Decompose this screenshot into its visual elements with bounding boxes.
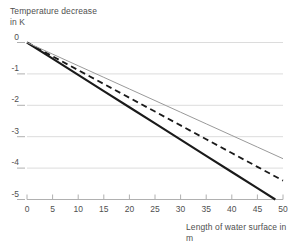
y-tick-label: -3 <box>1 126 19 136</box>
x-tick-label: 20 <box>119 204 139 214</box>
x-tick-label: 0 <box>17 204 37 214</box>
x-tick-label: 40 <box>222 204 242 214</box>
y-tick-label: -5 <box>1 189 19 199</box>
y-tick-label: 0 <box>1 32 19 42</box>
x-tick-label: 25 <box>145 204 165 214</box>
series-line-dashed <box>27 43 283 181</box>
x-tick-label: 30 <box>171 204 191 214</box>
x-tick-label: 10 <box>68 204 88 214</box>
x-tick-marks-group <box>27 195 283 200</box>
y-tick-label: -4 <box>1 157 19 167</box>
y-tick-label: -1 <box>1 63 19 73</box>
x-tick-label: 5 <box>43 204 63 214</box>
series-line-solid-thin-gray <box>27 43 283 159</box>
series-line-solid-thick <box>27 43 275 200</box>
x-tick-label: 15 <box>94 204 114 214</box>
y-tick-label: -2 <box>1 94 19 104</box>
x-axis-title: Length of water surface in m <box>186 222 296 244</box>
x-tick-label: 50 <box>273 204 293 214</box>
x-tick-label: 45 <box>247 204 267 214</box>
x-tick-label: 35 <box>196 204 216 214</box>
data-series-group <box>27 43 283 200</box>
